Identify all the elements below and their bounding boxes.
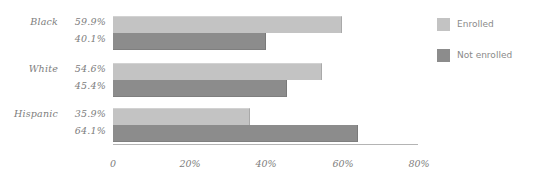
bar-not-enrolled-black: [113, 33, 266, 50]
category-label: White: [0, 63, 58, 74]
legend-swatch-icon: [437, 49, 450, 62]
x-tick-label-0: 0: [93, 158, 133, 169]
value-label-enrolled: 59.9%: [58, 16, 106, 27]
legend-label: Enrolled: [457, 19, 494, 29]
value-label-enrolled: 54.6%: [58, 63, 106, 74]
legend-label: Not enrolled: [457, 50, 512, 60]
bar-chart: Black 59.9% 40.1% White 54.6% 45.4% Hisp…: [0, 0, 541, 191]
legend-swatch-icon: [437, 18, 450, 31]
x-tick-label-40: 40%: [246, 158, 286, 169]
value-label-not-enrolled: 64.1%: [58, 125, 106, 136]
x-axis-line: [113, 144, 418, 145]
category-label: Black: [0, 16, 58, 27]
x-tick-label-80: 80%: [399, 158, 439, 169]
value-label-not-enrolled: 40.1%: [58, 33, 106, 44]
x-tick-label-60: 60%: [323, 158, 363, 169]
bar-not-enrolled-white: [113, 80, 287, 97]
value-label-not-enrolled: 45.4%: [58, 80, 106, 91]
value-label-enrolled: 35.9%: [58, 108, 106, 119]
x-tick-label-20: 20%: [170, 158, 210, 169]
bar-enrolled-black: [113, 16, 342, 33]
category-label: Hispanic: [0, 108, 58, 119]
bar-enrolled-white: [113, 63, 322, 80]
bar-enrolled-hispanic: [113, 108, 250, 125]
bar-not-enrolled-hispanic: [113, 125, 358, 142]
